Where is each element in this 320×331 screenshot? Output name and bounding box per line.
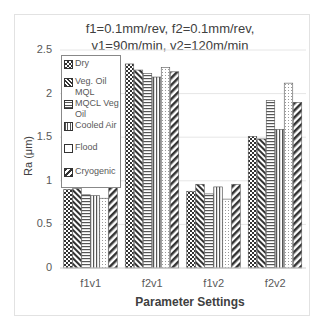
bar-f1v1-cooled-air [91, 196, 100, 268]
bar-f1v2-mqcl-veg-oil [205, 194, 214, 268]
legend-label: Cooled Air [75, 120, 123, 131]
legend-label: Dry [75, 58, 123, 69]
bar-f2v2-dry [248, 136, 257, 268]
bar-f2v1-mqcl-veg-oil [143, 74, 152, 268]
legend-item-veg-oil-mql: Veg. Oil MQL [64, 76, 123, 98]
legend-swatch-icon [64, 144, 73, 153]
plot-area [0, 0, 320, 331]
chart-legend: DryVeg. Oil MQLMQCL Veg OilCooled AirFlo… [61, 55, 121, 188]
legend-label: Veg. Oil MQL [75, 76, 123, 98]
legend-swatch-icon [64, 168, 73, 177]
bar-f1v2-veg-oil-mql [196, 184, 205, 268]
bar-f1v1-veg-oil-mql [73, 189, 82, 268]
bar-f1v2-flood [223, 199, 232, 268]
legend-item-flood: Flood [64, 142, 123, 153]
bar-f2v1-cooled-air [152, 77, 161, 268]
legend-item-mqcl-veg-oil: MQCL Veg Oil [64, 98, 123, 120]
legend-swatch-icon [64, 100, 73, 109]
legend-swatch-icon [64, 60, 73, 69]
legend-swatch-icon [64, 122, 73, 131]
legend-label: Cryogenic [75, 166, 123, 177]
bar-f2v2-flood [284, 83, 293, 268]
legend-item-cooled-air: Cooled Air [64, 120, 123, 131]
legend-label: Flood [75, 142, 123, 153]
bar-f2v1-flood [161, 67, 170, 268]
bar-f1v2-cooled-air [214, 187, 223, 268]
legend-swatch-icon [64, 78, 73, 87]
legend-item-cryogenic: Cryogenic [64, 166, 123, 177]
x-axis-label: Parameter Settings [100, 295, 280, 309]
bar-f2v2-cryogenic [293, 102, 302, 268]
bar-f2v1-veg-oil-mql [134, 70, 143, 268]
bar-f2v1-cryogenic [170, 72, 179, 268]
bar-f1v2-cryogenic [232, 184, 241, 268]
legend-label: MQCL Veg Oil [75, 98, 123, 120]
bar-f1v1-dry [64, 190, 73, 268]
bar-f1v2-dry [187, 191, 196, 268]
legend-item-dry: Dry [64, 58, 123, 69]
bar-f1v1-cryogenic [109, 187, 118, 268]
bar-f2v2-mqcl-veg-oil [266, 101, 275, 268]
bar-f2v2-cooled-air [275, 129, 284, 268]
bar-f1v1-flood [100, 198, 109, 268]
bar-f2v1-dry [125, 64, 134, 268]
bar-f1v1-mqcl-veg-oil [82, 195, 91, 268]
bar-f2v2-veg-oil-mql [257, 139, 266, 268]
